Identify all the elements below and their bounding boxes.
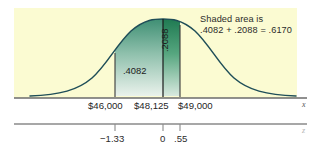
normal-distribution-figure: Shaded area is .4082 + .2088 = .6170 .40… — [0, 0, 319, 155]
annotation-line-1: Shaded area is — [200, 14, 292, 25]
x-ticklabel-1: $48,125 — [134, 100, 169, 111]
annotation-line-2: .4082 + .2088 = .6170 — [200, 25, 292, 36]
area-label-right: .2088 — [160, 29, 171, 52]
area-label-left: .4082 — [123, 66, 146, 77]
x-ticklabel-2: $49,000 — [178, 100, 213, 111]
x-axis-name: x — [302, 100, 306, 109]
z-axis-name: z — [302, 126, 305, 135]
z-ticklabel-0: −1.33 — [100, 133, 124, 144]
shaded-area-annotation: Shaded area is .4082 + .2088 = .6170 — [200, 14, 292, 35]
z-ticklabel-2: .55 — [174, 133, 187, 144]
x-ticklabel-0: $46,000 — [88, 100, 123, 111]
z-ticklabel-1: 0 — [160, 133, 165, 144]
